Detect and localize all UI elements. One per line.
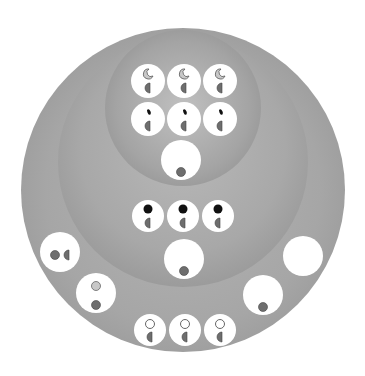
light-dot-icon [92, 282, 101, 291]
half-disc-icon [181, 121, 186, 131]
crescent-icon [179, 69, 189, 79]
cell-markings [0, 0, 365, 376]
half-disc-icon [147, 332, 152, 342]
crescent-icon [143, 69, 153, 79]
half-disc-icon [145, 218, 150, 228]
gray-dot-icon [180, 267, 189, 276]
half-disc-icon [180, 218, 185, 228]
gray-dot-icon [177, 168, 186, 177]
fleck-icon [146, 109, 151, 116]
gray-dot-icon [51, 251, 60, 260]
black-dot-icon [179, 205, 188, 214]
fleck-icon [182, 109, 187, 116]
fleck-icon [218, 109, 223, 116]
half-disc-icon [181, 83, 186, 93]
half-disc-icon [217, 83, 222, 93]
half-disc-icon [215, 218, 220, 228]
crescent-icon [215, 69, 225, 79]
half-disc-icon [217, 121, 222, 131]
open-circle-icon [146, 320, 155, 329]
half-disc-icon [145, 121, 150, 131]
gray-dot-icon [92, 301, 101, 310]
half-disc-icon [217, 332, 222, 342]
half-disc-icon [145, 83, 150, 93]
half-disc-icon [64, 250, 69, 260]
gray-dot-icon [259, 303, 268, 312]
black-dot-icon [214, 205, 223, 214]
open-circle-icon [181, 320, 190, 329]
half-disc-icon [182, 332, 187, 342]
black-dot-icon [144, 205, 153, 214]
open-circle-icon [216, 320, 225, 329]
